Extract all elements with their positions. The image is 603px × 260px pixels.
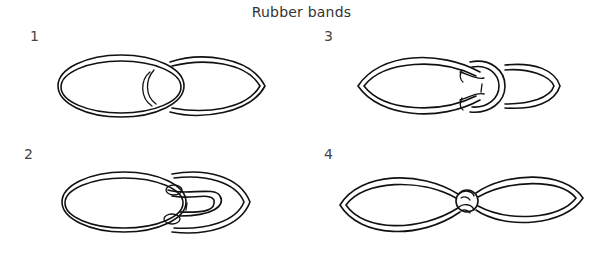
knot bbox=[456, 190, 478, 213]
rubber-band-left bbox=[62, 172, 186, 232]
rubber-band-left bbox=[58, 55, 184, 117]
rubber-band-left bbox=[358, 58, 484, 114]
step-4-illustration bbox=[340, 177, 583, 231]
step-2-illustration bbox=[62, 172, 250, 233]
rubber-band-right bbox=[470, 61, 560, 112]
rubber-band-right bbox=[168, 172, 250, 233]
step-3-illustration bbox=[358, 58, 560, 114]
step-1-illustration bbox=[58, 55, 265, 117]
rubber-band-left bbox=[340, 178, 460, 232]
rubber-band-right bbox=[476, 177, 583, 222]
rubber-bands-illustration bbox=[0, 0, 603, 260]
